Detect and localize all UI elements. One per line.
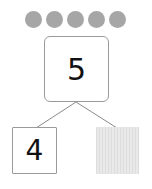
part-right-hidden-box[interactable] [96, 127, 139, 174]
part-left-box: 4 [12, 127, 57, 174]
whole-box: 5 [44, 36, 109, 102]
